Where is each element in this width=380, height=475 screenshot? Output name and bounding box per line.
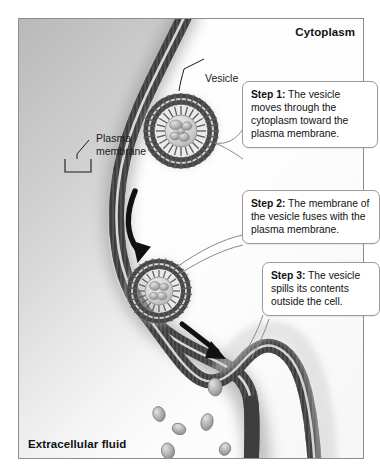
label-plasma-membrane-line2: membrane	[96, 145, 146, 158]
label-cytoplasm: Cytoplasm	[295, 26, 355, 38]
vesicle-fusing	[125, 257, 193, 325]
exocytosis-figure: Cytoplasm Extracellular fluid Vesicle Pl…	[0, 0, 380, 475]
vesicle-free	[142, 92, 220, 170]
callout-step-3-label: Step 3:	[271, 270, 305, 281]
callout-step-3: Step 3: The vesicle spills its contents …	[262, 262, 380, 316]
label-vesicle: Vesicle	[205, 72, 238, 85]
released-contents	[151, 377, 233, 458]
label-plasma-membrane-line1: Plasma	[96, 132, 146, 145]
label-plasma-membrane: Plasma membrane	[96, 132, 146, 157]
leader-plasma-membrane	[65, 140, 91, 172]
label-extracellular-fluid: Extracellular fluid	[28, 438, 126, 450]
callout-step-2: Step 2: The membrane of the vesicle fuse…	[242, 190, 380, 244]
callout-step-1-label: Step 1:	[251, 89, 285, 100]
callout-step-1: Step 1: The vesicle moves through the cy…	[242, 81, 378, 148]
callout-step-2-label: Step 2:	[251, 198, 285, 209]
